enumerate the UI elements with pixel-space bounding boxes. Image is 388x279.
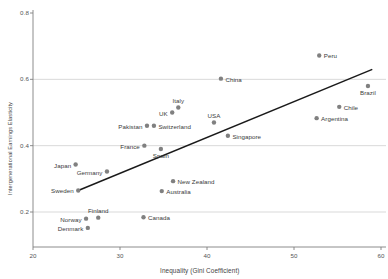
data-point[interactable] — [76, 188, 80, 192]
point-label: Japan — [54, 161, 71, 168]
x-tick-label: 50 — [282, 252, 306, 259]
point-label: France — [120, 142, 140, 149]
data-point[interactable] — [337, 105, 341, 109]
point-label: Peru — [324, 52, 337, 59]
data-point[interactable] — [366, 84, 370, 88]
point-label: Singapore — [232, 132, 261, 139]
data-point[interactable] — [141, 215, 145, 219]
data-point[interactable] — [142, 143, 146, 147]
x-tick-label: 60 — [369, 252, 388, 259]
y-tick-label: 0.2 — [10, 208, 29, 215]
point-label: Italy — [172, 97, 184, 104]
point-label: Denmark — [58, 224, 83, 231]
data-point[interactable] — [317, 53, 321, 57]
point-label: Brazil — [360, 89, 376, 96]
data-point[interactable] — [86, 226, 90, 230]
point-label: Switzerland — [158, 122, 191, 129]
data-point[interactable] — [314, 116, 318, 120]
data-point[interactable] — [170, 110, 174, 114]
point-label: Argentina — [321, 115, 348, 122]
point-label: USA — [208, 112, 221, 119]
point-label: UK — [159, 109, 168, 116]
point-label: Australia — [166, 188, 191, 195]
point-label: New Zealand — [178, 178, 215, 185]
y-tick-label: 0.8 — [10, 9, 29, 16]
data-point[interactable] — [84, 216, 88, 220]
point-label: Chile — [344, 103, 358, 110]
x-axis-title: Inequality (Gini Coefficient) — [160, 267, 240, 274]
point-label: Finland — [88, 207, 109, 214]
point-label: Sweden — [51, 187, 74, 194]
data-point[interactable] — [159, 147, 163, 151]
scatter-chart: 0.20.40.60.82030405060 DenmarkNorwayFinl… — [0, 0, 388, 279]
data-point[interactable] — [145, 124, 149, 128]
data-point[interactable] — [176, 105, 180, 109]
data-point[interactable] — [73, 162, 77, 166]
x-tick-label: 30 — [108, 252, 132, 259]
point-label: Pakistan — [118, 122, 142, 129]
x-tick-label: 20 — [21, 252, 45, 259]
point-label: Germany — [77, 168, 103, 175]
data-point[interactable] — [226, 134, 230, 138]
point-label: Canada — [148, 214, 170, 221]
data-point[interactable] — [219, 76, 223, 80]
data-point[interactable] — [212, 120, 216, 124]
data-point[interactable] — [105, 169, 109, 173]
data-point[interactable] — [171, 179, 175, 183]
y-tick-label: 0.6 — [10, 75, 29, 82]
data-point[interactable] — [152, 124, 156, 128]
x-tick-label: 40 — [195, 252, 219, 259]
data-point[interactable] — [160, 189, 164, 193]
trend-line — [78, 69, 372, 190]
point-label: Norway — [60, 215, 81, 222]
plot-canvas — [0, 0, 388, 279]
point-label: China — [225, 75, 241, 82]
point-label: Spain — [153, 152, 169, 159]
data-point[interactable] — [96, 215, 100, 219]
y-axis-title: Intergenerational Earnings Elasticity — [7, 102, 13, 195]
